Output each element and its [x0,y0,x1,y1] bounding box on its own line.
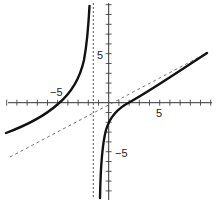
y-tick-label-neg5: −5 [115,147,128,159]
x-tick-label-neg5: −5 [50,86,63,98]
function-graph: −5 5 5 −5 [0,0,219,205]
curve-right-branch [100,53,207,198]
curve-left-branch [6,6,90,133]
y-tick-label-5: 5 [97,49,103,61]
x-tick-label-5: 5 [156,107,162,119]
axes [8,3,212,200]
